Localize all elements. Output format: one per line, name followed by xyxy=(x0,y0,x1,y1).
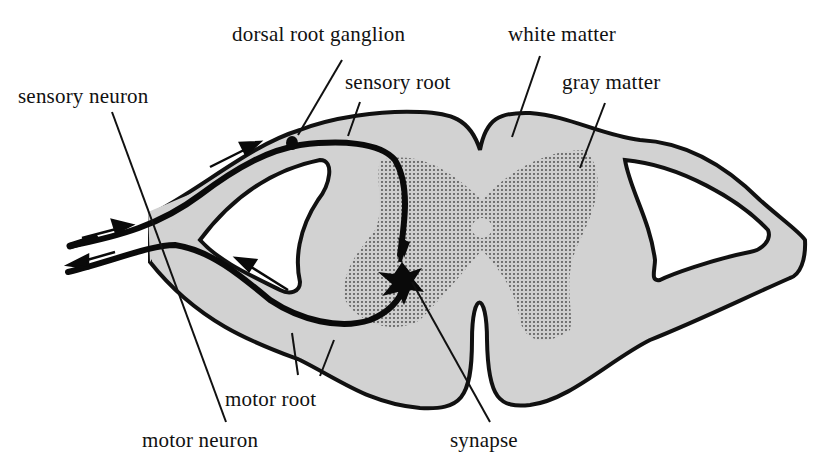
label-motor-root: motor root xyxy=(225,389,316,410)
label-white-matter: white matter xyxy=(508,24,616,45)
label-synapse: synapse xyxy=(450,430,518,451)
label-dorsal-root-ganglion: dorsal root ganglion xyxy=(232,24,405,45)
label-motor-neuron: motor neuron xyxy=(142,430,258,451)
spinal-cord-diagram: dorsal root ganglion white matter sensor… xyxy=(0,0,815,465)
dorsal-root-ganglion-cell xyxy=(286,136,298,150)
label-sensory-neuron: sensory neuron xyxy=(18,86,149,107)
label-sensory-root: sensory root xyxy=(345,72,451,93)
label-gray-matter: gray matter xyxy=(562,72,660,93)
